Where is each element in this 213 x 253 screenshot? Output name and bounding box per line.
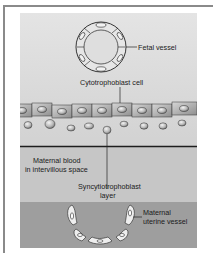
diagram-svg: Fetal vessel Cytotrophoblast cell [20,13,197,248]
label-maternal-blood-line1: Maternal blood [33,156,81,165]
frame-top-border [3,5,213,7]
label-maternal-vessel-line2: uterine vessel [143,217,188,226]
fetal-vessel-icon [76,22,126,72]
cytotrophoblast-layer [20,102,197,118]
label-cytotrophoblast: Cytotrophoblast cell [80,78,144,87]
frame-left-border [3,5,5,253]
label-maternal-vessel-line1: Maternal [143,208,171,217]
label-syncytiotrophoblast-line2: layer [100,191,116,200]
label-fetal-vessel: Fetal vessel [138,43,177,52]
placenta-diagram: Fetal vessel Cytotrophoblast cell [20,13,197,248]
label-maternal-blood-line2: in intervillous space [25,165,88,174]
label-syncytiotrophoblast-line1: Syncytiotrophoblast [78,182,141,191]
